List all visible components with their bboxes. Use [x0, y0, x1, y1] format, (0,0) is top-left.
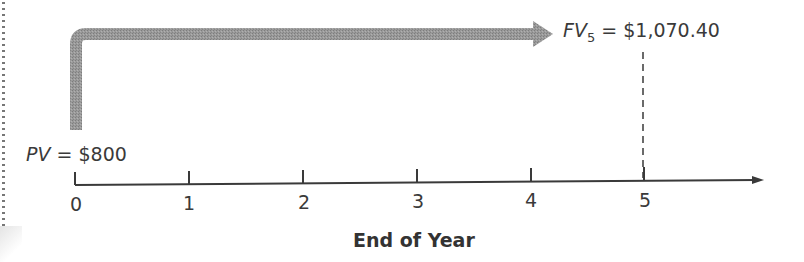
tick-label-2: 2	[298, 191, 310, 213]
pv-variable: PV	[26, 143, 50, 165]
pv-value: = $800	[50, 143, 126, 165]
axis-arrow-icon	[752, 176, 764, 184]
tick-label-4: 4	[525, 189, 537, 211]
arrow-head-icon	[533, 21, 553, 47]
fv-label: FV5 = $1,070.40	[563, 19, 720, 45]
tick-label-1: 1	[183, 192, 195, 214]
axis-title: End of Year	[353, 229, 475, 251]
fv-subscript: 5	[587, 30, 595, 45]
tick-label-5: 5	[639, 189, 651, 211]
fv-value: = $1,070.40	[595, 19, 720, 41]
tick-label-3: 3	[412, 190, 424, 212]
tick-label-0: 0	[70, 193, 82, 215]
fv-variable: FV	[563, 19, 587, 41]
pv-label: PV = $800	[26, 143, 127, 165]
growth-arrow	[76, 21, 553, 130]
time-axis	[75, 167, 764, 185]
